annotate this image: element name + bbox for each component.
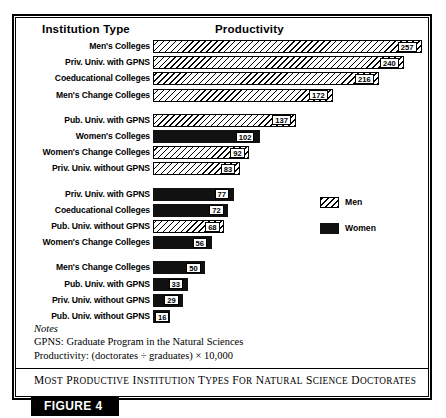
bar-value-label: 68 bbox=[205, 222, 219, 232]
caption-word: TYPES bbox=[198, 374, 229, 386]
bar-value-label: 240 bbox=[380, 58, 399, 68]
bar-chart-plot: Men's Colleges257Priv. Univ. with GPNS24… bbox=[19, 40, 425, 298]
chart-legend: Men Women bbox=[320, 197, 420, 249]
bar-value-label: 29 bbox=[164, 295, 178, 305]
legend-swatch-men-icon bbox=[320, 197, 339, 208]
bar-men bbox=[153, 72, 379, 85]
bar-row: Men's Change Colleges50 bbox=[19, 261, 425, 274]
bar-value-label: 172 bbox=[309, 90, 328, 100]
bar-category-label: Women's Change Colleges bbox=[19, 236, 150, 249]
bar-row: Women's Colleges102 bbox=[19, 130, 425, 143]
bar-men bbox=[153, 89, 333, 102]
bar-value-label: 102 bbox=[236, 132, 255, 142]
bar-category-label: Priv. Univ. with GPNS bbox=[19, 188, 150, 201]
notes-heading: Notes bbox=[34, 322, 364, 335]
bar-track: 83 bbox=[153, 162, 425, 175]
bar-category-label: Priv. Univ. without GPNS bbox=[19, 162, 150, 175]
bar-value-label: 257 bbox=[398, 42, 417, 52]
bar-value-label: 92 bbox=[230, 148, 244, 158]
bar-row: Coeducational Colleges216 bbox=[19, 72, 425, 85]
bar-value-label: 216 bbox=[355, 74, 374, 84]
caption-word: FOR bbox=[232, 374, 252, 386]
caption-divider bbox=[15, 368, 429, 369]
legend-item-women: Women bbox=[320, 223, 420, 236]
bar-value-label: 16 bbox=[155, 312, 169, 322]
bar-row: Priv. Univ. with GPNS240 bbox=[19, 56, 425, 69]
bar-category-label: Men's Change Colleges bbox=[19, 261, 150, 274]
bar-row: Pub. Univ. with GPNS137 bbox=[19, 114, 425, 127]
bar-row: Women's Change Colleges92 bbox=[19, 146, 425, 159]
caption-word: MOST bbox=[34, 374, 63, 386]
bar-value-label: 33 bbox=[169, 279, 183, 289]
bar-category-label: Priv. Univ. without GPNS bbox=[19, 294, 150, 307]
legend-label-women: Women bbox=[345, 223, 376, 234]
figure-container: Institution Type Productivity Men's Coll… bbox=[0, 0, 446, 418]
bar-row: Men's Change Colleges172 bbox=[19, 89, 425, 102]
bar-category-label: Coeducational Colleges bbox=[19, 204, 150, 217]
bar-track: 240 bbox=[153, 56, 425, 69]
bar-track: 216 bbox=[153, 72, 425, 85]
caption-word: PRODUCTIVE bbox=[66, 374, 129, 386]
bar-category-label: Pub. Univ. with GPNS bbox=[19, 114, 150, 127]
bar-track: 29 bbox=[153, 294, 425, 307]
bar-value-label: 137 bbox=[272, 115, 291, 125]
bar-value-label: 56 bbox=[193, 238, 207, 248]
header-institution-type: Institution Type bbox=[42, 23, 130, 35]
caption-word: SCIENCE bbox=[306, 374, 348, 386]
caption-word: INSTITUTION bbox=[133, 374, 195, 386]
legend-swatch-women-icon bbox=[320, 223, 339, 234]
bar-track: 102 bbox=[153, 130, 425, 143]
caption-word: NATURAL bbox=[256, 374, 303, 386]
bar-men bbox=[153, 40, 422, 53]
legend-label-men: Men bbox=[345, 197, 362, 208]
bar-track: 137 bbox=[153, 114, 425, 127]
notes-block: Notes GPNS: Graduate Program in the Natu… bbox=[34, 322, 364, 362]
bar-category-label: Pub. Univ. with GPNS bbox=[19, 278, 150, 291]
bar-track: 50 bbox=[153, 261, 425, 274]
bar-row: Priv. Univ. without GPNS29 bbox=[19, 294, 425, 307]
bar-category-label: Men's Colleges bbox=[19, 40, 150, 53]
bar-category-label: Men's Change Colleges bbox=[19, 89, 150, 102]
bar-category-label: Priv. Univ. with GPNS bbox=[19, 56, 150, 69]
bar-value-label: 72 bbox=[209, 205, 223, 215]
bar-row: Priv. Univ. without GPNS83 bbox=[19, 162, 425, 175]
bar-row: Men's Colleges257 bbox=[19, 40, 425, 53]
notes-line-productivity: Productivity: (doctorates ÷ graduates) ×… bbox=[34, 349, 364, 363]
bar-category-label: Women's Colleges bbox=[19, 130, 150, 143]
bar-value-label: 83 bbox=[221, 164, 235, 174]
figure-number-tag: FIGURE 4 bbox=[31, 396, 119, 416]
bar-track: 33 bbox=[153, 278, 425, 291]
bar-value-label: 77 bbox=[215, 189, 229, 199]
legend-item-men: Men bbox=[320, 197, 420, 210]
bar-category-label: Women's Change Colleges bbox=[19, 146, 150, 159]
bar-row: Pub. Univ. with GPNS33 bbox=[19, 278, 425, 291]
column-headers: Institution Type Productivity bbox=[19, 22, 425, 42]
bar-track: 92 bbox=[153, 146, 425, 159]
figure-caption: MOST PRODUCTIVE INSTITUTION TYPES FOR NA… bbox=[34, 374, 414, 386]
notes-line-gpns: GPNS: Graduate Program in the Natural Sc… bbox=[34, 335, 364, 349]
header-productivity: Productivity bbox=[215, 23, 284, 35]
bar-value-label: 50 bbox=[186, 263, 200, 273]
bar-category-label: Coeducational Colleges bbox=[19, 72, 150, 85]
bar-men bbox=[153, 56, 404, 69]
bar-track: 257 bbox=[153, 40, 425, 53]
bar-track: 172 bbox=[153, 89, 425, 102]
caption-word: DOCTORATES bbox=[351, 374, 416, 386]
bar-category-label: Pub. Univ. without GPNS bbox=[19, 220, 150, 233]
